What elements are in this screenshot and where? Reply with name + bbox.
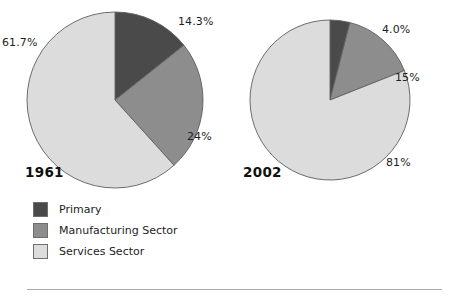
- chart-legend: Primary Manufacturing Sector Services Se…: [33, 199, 273, 262]
- pie-year-label-1961: 1961: [25, 166, 64, 180]
- legend-item-manufacturing: Manufacturing Sector: [33, 220, 273, 241]
- pie-year-label-2002: 2002: [243, 166, 282, 180]
- legend-swatch-primary-icon: [33, 202, 48, 217]
- pie-label-manufacturing-2002: 15%: [395, 72, 420, 83]
- pie-label-primary-2002: 4.0%: [382, 24, 410, 35]
- legend-item-services: Services Sector: [33, 241, 273, 262]
- legend-swatch-manufacturing-icon: [33, 223, 48, 238]
- legend-label-primary: Primary: [59, 204, 102, 215]
- pie-1961-slices: [27, 12, 203, 188]
- legend-label-manufacturing: Manufacturing Sector: [59, 225, 178, 236]
- pie-label-manufacturing-1961: 24%: [187, 131, 212, 142]
- legend-item-primary: Primary: [33, 199, 273, 220]
- legend-label-services: Services Sector: [59, 246, 144, 257]
- legend-swatch-services-icon: [33, 244, 48, 259]
- pie-chart-figure: 14.3% 61.7% 24% 1961 4.0% 15% 81% 2002 P…: [0, 0, 452, 298]
- footer-divider: [27, 289, 442, 290]
- pie-label-services-1961: 61.7%: [2, 37, 37, 48]
- pie-label-services-2002: 81%: [386, 157, 411, 168]
- pie-label-primary-1961: 14.3%: [178, 16, 213, 27]
